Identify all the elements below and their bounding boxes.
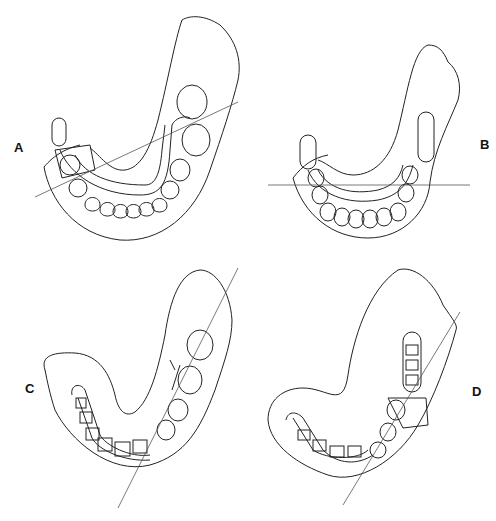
panel-b: B	[248, 0, 496, 260]
panel-label-d: D	[472, 384, 481, 399]
panel-d: D	[248, 260, 496, 521]
mandible-drawing-c	[0, 260, 248, 521]
mandible-drawing-a	[0, 0, 248, 260]
mandible-drawing-d	[248, 260, 496, 521]
panel-label-b: B	[480, 137, 489, 152]
panel-c: C	[0, 260, 248, 521]
panel-label-a: A	[14, 140, 23, 155]
panel-label-c: C	[25, 381, 34, 396]
mandible-drawing-b	[248, 0, 496, 260]
panel-a: A	[0, 0, 248, 260]
